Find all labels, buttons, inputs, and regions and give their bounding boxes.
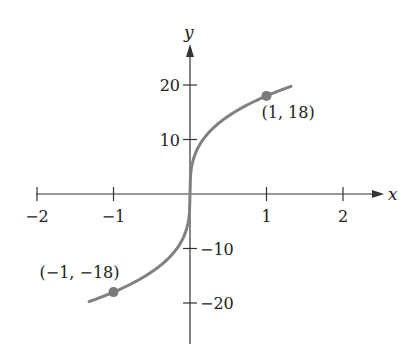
tick-labels: xy−2−1122010−10−20(1, 18)(−1, −18)	[25, 22, 398, 313]
x-tick-label: −1	[102, 207, 126, 226]
x-axis-arrow-icon	[372, 190, 384, 198]
x-tick-label: −2	[25, 207, 49, 226]
x-tick-label: 2	[338, 207, 348, 226]
data-point	[109, 287, 119, 297]
y-tick-label: 20	[160, 76, 180, 95]
x-tick-label: 1	[261, 207, 271, 226]
data-point	[262, 91, 272, 101]
y-tick-label: 10	[160, 131, 180, 150]
y-axis-label: y	[183, 22, 194, 42]
y-axis-arrow-icon	[186, 44, 194, 57]
point-label: (1, 18)	[262, 103, 315, 122]
y-tick-label: −10	[200, 240, 234, 259]
point-label: (−1, −18)	[39, 263, 119, 282]
y-tick-label: −20	[200, 294, 234, 313]
cube-root-plot: xy−2−1122010−10−20(1, 18)(−1, −18)	[0, 0, 401, 354]
x-axis-label: x	[388, 184, 398, 204]
